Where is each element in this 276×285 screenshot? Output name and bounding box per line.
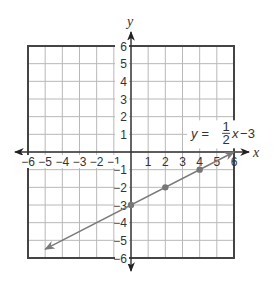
y-tick-label: 5 xyxy=(120,57,127,71)
y-tick-label: −4 xyxy=(113,216,127,230)
x-tick-label: −2 xyxy=(90,155,104,169)
y-tick-label: −2 xyxy=(113,181,127,195)
x-tick-label: 6 xyxy=(231,155,238,169)
data-point xyxy=(196,166,202,172)
x-tick-label: 3 xyxy=(179,155,186,169)
equation-label: y = 1 2 x −3 xyxy=(187,119,259,148)
equation-denominator: 2 xyxy=(222,132,229,147)
x-tick-label: −4 xyxy=(55,155,69,169)
equation-constant: −3 xyxy=(240,126,255,141)
equation-variable: x xyxy=(231,126,239,141)
y-tick-label: 3 xyxy=(120,93,127,107)
x-tick-label: 2 xyxy=(162,155,169,169)
y-tick-label: −6 xyxy=(113,252,127,266)
data-point xyxy=(162,184,168,190)
coordinate-plane: −6−5−4−3−2−1123456−6−5−4−3−2−1123456 x y… xyxy=(0,0,276,285)
y-tick-label: 4 xyxy=(120,75,127,89)
x-tick-label: −6 xyxy=(21,155,35,169)
x-tick-label: −3 xyxy=(73,155,87,169)
y-tick-label: −1 xyxy=(113,163,127,177)
x-tick-label: 1 xyxy=(145,155,152,169)
y-tick-label: −5 xyxy=(113,234,127,248)
y-tick-label: 1 xyxy=(120,128,127,142)
y-tick-label: 2 xyxy=(120,110,127,124)
data-point xyxy=(128,202,134,208)
equation-lhs: y = xyxy=(190,126,209,141)
x-tick-label: −5 xyxy=(38,155,52,169)
y-tick-label: 6 xyxy=(120,40,127,54)
y-axis-label: y xyxy=(125,14,134,29)
